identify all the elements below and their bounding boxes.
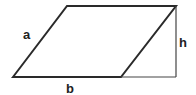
parallelogram-diagram: a b h <box>0 0 196 95</box>
side-label-a: a <box>23 27 31 42</box>
base-label-b: b <box>66 81 74 95</box>
height-label-h: h <box>179 35 187 50</box>
parallelogram-shape <box>13 6 176 77</box>
